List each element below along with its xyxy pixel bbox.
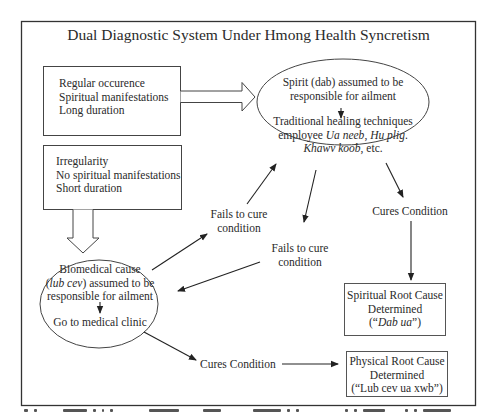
spirit-techniques-line: employee Ua neeb, Hu plig. — [259, 129, 427, 143]
text: employee — [278, 129, 326, 141]
edge-label-line: condition — [264, 256, 336, 270]
biomedical-line: Go to medical clinic — [40, 316, 160, 330]
technique-ua-neeb: Ua neeb — [326, 129, 365, 141]
indicator-line: No spiritual manifestations — [56, 169, 181, 183]
text: ) assumed to be — [82, 277, 154, 289]
technique-khawv-koob: Khawv koob — [303, 142, 360, 154]
indicator-line: Long duration — [59, 104, 169, 118]
text: , etc. — [361, 142, 383, 154]
spirit-line: Traditional healing techniques — [259, 115, 427, 129]
edge-label-cures-physical: Cures Condition — [200, 358, 276, 372]
edge-label-fails-to-cure-1: Fails to cure condition — [204, 208, 274, 235]
spirit-node-text: Spirit (dab) assumed to be responsible f… — [259, 76, 427, 156]
root-line: Physical Root Cause — [346, 355, 448, 369]
diagram-title: Dual Diagnostic System Under Hmong Healt… — [21, 26, 476, 44]
diagram-text-layer: Dual Diagnostic System Under Hmong Healt… — [0, 0, 490, 417]
spiritual-indicators-text: Regular occurence Spiritual manifestatio… — [59, 77, 169, 118]
edge-label-line: Fails to cure — [264, 242, 336, 256]
physical-root-text: Physical Root Cause Determined (“Lub cev… — [346, 355, 448, 396]
text: (“ — [369, 316, 378, 328]
dab-ua-term: Dab ua — [378, 316, 412, 328]
indicator-line: Irregularity — [56, 155, 181, 169]
biomedical-line: Biomedical cause — [40, 263, 160, 277]
text: . — [405, 129, 408, 141]
root-line: Determined — [344, 303, 446, 317]
indicator-line: Spiritual manifestations — [59, 91, 169, 105]
cropped-caption-fragment — [24, 409, 486, 417]
root-line: Spiritual Root Cause — [344, 289, 446, 303]
spirit-line: responsible for ailment — [259, 90, 427, 104]
indicator-line: Regular occurence — [59, 77, 169, 91]
lub-cev-term: lub cev — [50, 277, 83, 289]
edge-label-cures-spiritual: Cures Condition — [368, 205, 452, 219]
indicator-line: Short duration — [56, 182, 181, 196]
spiritual-root-text: Spiritual Root Cause Determined (“Dab ua… — [344, 289, 446, 330]
edge-label-line: condition — [204, 222, 274, 236]
biomedical-line: (lub cev) assumed to be — [40, 277, 160, 291]
technique-hu-plig: Hu plig — [370, 129, 405, 141]
biomedical-indicators-text: Irregularity No spiritual manifestations… — [56, 155, 181, 196]
spirit-line: Spirit (dab) assumed to be — [259, 76, 427, 90]
root-line: (“Lub cev ua xwb”) — [346, 382, 448, 396]
spirit-techniques-line: Khawv koob, etc. — [259, 142, 427, 156]
biomedical-line: responsible for ailment — [40, 290, 160, 304]
edge-label-fails-to-cure-2: Fails to cure condition — [264, 242, 336, 269]
root-line: (“Dab ua”) — [344, 316, 446, 330]
root-line: Determined — [346, 369, 448, 383]
biomedical-node-text: Biomedical cause (lub cev) assumed to be… — [40, 263, 160, 329]
text: ”) — [412, 316, 421, 328]
edge-label-line: Fails to cure — [204, 208, 274, 222]
